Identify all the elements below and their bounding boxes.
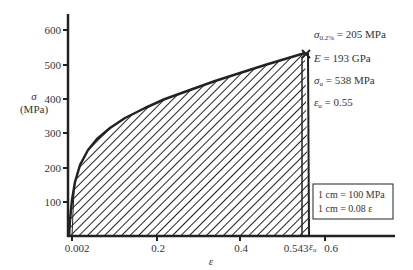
annotation-ultimate-strength: σu = 538 MPa	[314, 74, 375, 88]
y-tick-label: 600	[45, 24, 62, 36]
y-tick-label: 200	[45, 162, 62, 174]
unloading-line-right	[308, 53, 309, 236]
annotation-elastic-modulus: E = 193 GPa	[313, 52, 371, 64]
x-tick-label-eps-u: εu	[309, 241, 317, 254]
y-axis-label: σ	[31, 90, 37, 102]
x-tick-label: 0.6	[324, 242, 338, 254]
x-tick-label: 0.543	[284, 242, 309, 254]
annotation-yield-strength: σ0.2% = 205 MPa	[314, 28, 386, 42]
scale-strain: 1 cm = 0.08 ε	[318, 203, 373, 214]
y-tick-label: 100	[45, 196, 62, 208]
x-tick-label: 0.2	[151, 242, 165, 254]
x-tick-label: 0.002	[65, 242, 90, 254]
hatched-area	[60, 40, 320, 240]
annotation-ultimate-strain: εu = 0.55	[314, 96, 353, 110]
x-tick-label: 0.4	[234, 242, 248, 254]
annotations: σ0.2% = 205 MPa E = 193 GPa σu = 538 MPa…	[313, 28, 386, 110]
stress-strain-chart: 600 500 400 300 200 100 σ (MPa) 0.002 0.…	[0, 0, 413, 270]
x-axis-label: ε	[209, 255, 214, 267]
scale-legend-box: 1 cm = 100 MPa 1 cm = 0.08 ε	[313, 184, 393, 219]
scale-stress: 1 cm = 100 MPa	[318, 189, 385, 200]
y-tick-label: 300	[45, 127, 62, 139]
y-axis-unit: (MPa)	[20, 103, 48, 116]
y-tick-label: 500	[45, 59, 62, 71]
